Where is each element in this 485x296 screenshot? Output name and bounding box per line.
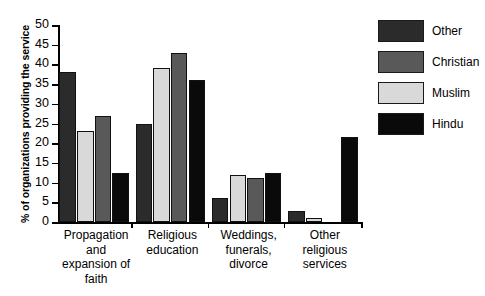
y-tick-label: 45 xyxy=(23,37,49,52)
y-tick-label: 5 xyxy=(23,194,49,209)
bar xyxy=(112,173,129,222)
y-tick-mark xyxy=(52,84,58,86)
bar xyxy=(265,173,282,222)
category-label: Other religious services xyxy=(287,228,363,272)
y-tick-label: 50 xyxy=(23,17,49,32)
legend-label: Christian xyxy=(432,55,479,69)
category-label: Propagation and expansion of faith xyxy=(58,228,134,286)
bar xyxy=(212,198,229,222)
legend-label: Hindu xyxy=(432,117,463,131)
legend-item-other[interactable]: Other xyxy=(378,20,485,43)
legend-swatch xyxy=(378,51,424,73)
y-tick-mark xyxy=(52,64,58,66)
bar xyxy=(153,68,170,222)
y-tick-mark xyxy=(52,104,58,106)
legend-label: Muslim xyxy=(432,86,470,100)
legend-label: Other xyxy=(432,24,462,38)
y-tick-mark xyxy=(52,45,58,47)
y-tick-label: 40 xyxy=(23,56,49,71)
x-axis-line xyxy=(58,222,363,224)
bar xyxy=(247,178,264,222)
legend-swatch xyxy=(378,20,424,42)
y-tick-mark xyxy=(52,163,58,165)
y-tick-mark xyxy=(52,143,58,145)
bar xyxy=(189,80,206,222)
bar xyxy=(95,116,112,222)
legend: OtherChristianMuslimHindu xyxy=(378,20,485,144)
bar-chart: % of organizations providing the service… xyxy=(0,0,485,296)
bar xyxy=(77,131,94,222)
y-tick-label: 20 xyxy=(23,135,49,150)
legend-swatch xyxy=(378,82,424,104)
y-tick-label: 35 xyxy=(23,76,49,91)
plot-area: 05101520253035404550 Propagation and exp… xyxy=(58,25,363,222)
y-tick-mark xyxy=(52,25,58,27)
bar xyxy=(171,53,188,222)
category-label: Weddings, funerals, divorce xyxy=(211,228,287,272)
bar xyxy=(59,72,76,222)
bar xyxy=(230,175,247,222)
legend-item-hindu[interactable]: Hindu xyxy=(378,113,485,136)
bar xyxy=(341,137,358,222)
y-tick-mark xyxy=(52,222,58,224)
bar xyxy=(306,218,323,222)
legend-item-muslim[interactable]: Muslim xyxy=(378,82,485,105)
bar xyxy=(136,124,153,223)
legend-item-christian[interactable]: Christian xyxy=(378,51,485,74)
y-tick-mark xyxy=(52,124,58,126)
y-tick-label: 30 xyxy=(23,96,49,111)
y-tick-label: 15 xyxy=(23,155,49,170)
legend-swatch xyxy=(378,113,424,135)
y-tick-label: 0 xyxy=(23,214,49,229)
category-label: Religious education xyxy=(134,228,210,257)
y-tick-mark xyxy=(52,183,58,185)
y-tick-label: 10 xyxy=(23,175,49,190)
y-tick-mark xyxy=(52,202,58,204)
bar xyxy=(288,211,305,222)
y-tick-label: 25 xyxy=(23,116,49,131)
